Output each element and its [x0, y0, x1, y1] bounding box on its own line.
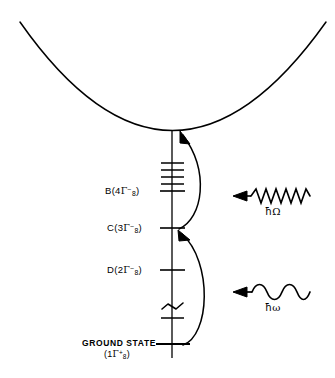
photon-upper-frequency: Ω	[272, 206, 281, 217]
level-B-gamma: Γ	[121, 185, 128, 196]
level-label-D: D(2Γ−8)	[107, 264, 142, 276]
diagram-canvas	[0, 0, 335, 378]
ground-state-title: GROUND STATE	[82, 338, 156, 348]
transition-arrow-upper	[179, 135, 200, 229]
ground-close-paren: )	[127, 349, 130, 359]
photon-label-upper: ħΩ	[265, 206, 281, 217]
photon-label-lower: ħω	[265, 302, 281, 313]
photon-sine-wave	[252, 285, 310, 300]
level-label-B: B(4Γ−8)	[105, 185, 139, 197]
transition-arrow-lower	[182, 234, 204, 345]
ground-state-label: GROUND STATE	[82, 338, 156, 348]
photon-sine-arrowhead	[233, 287, 247, 297]
photon-lower-frequency: ω	[272, 302, 280, 313]
level-C-close-paren: )	[139, 222, 142, 233]
photon-zigzag-wave	[251, 189, 310, 203]
photon-zigzag-arrowhead	[233, 191, 247, 201]
level-B-close-paren: )	[136, 185, 139, 196]
ground-state-term: (1Γ+8)	[104, 349, 130, 360]
level-D-close-paren: )	[139, 264, 142, 275]
potential-curve	[20, 22, 326, 131]
energy-level-diagram: B(4Γ−8) C(3Γ−8) D(2Γ−8) GROUND STATE (1Γ…	[0, 0, 335, 378]
transition-arrowhead-lower	[178, 230, 190, 241]
level-B-prefix: B	[105, 185, 112, 196]
level-label-C: C(3Γ−8)	[107, 222, 142, 234]
transition-arrowhead-upper	[180, 131, 190, 144]
